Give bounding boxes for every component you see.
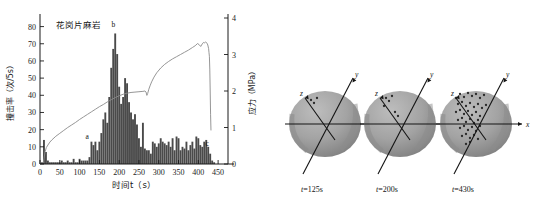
acoustic-event-dot	[463, 96, 465, 98]
histogram-bar	[170, 147, 172, 164]
acoustic-event-dot	[483, 94, 485, 96]
x-tick-label: 450	[212, 168, 224, 177]
histogram-bar	[140, 147, 142, 164]
histogram-bar	[184, 149, 186, 164]
histogram-bar	[81, 161, 83, 164]
histogram-bar	[156, 147, 158, 164]
histogram-bar	[160, 138, 162, 164]
histogram-bar	[193, 149, 195, 164]
y2-tick-label: 0	[232, 160, 236, 169]
histogram-bar	[136, 124, 138, 164]
x-tick-label: 0	[38, 168, 42, 177]
x-axis-title: 时间t（s）	[112, 180, 156, 190]
histogram-bar	[126, 83, 128, 164]
histogram-bar	[172, 138, 174, 164]
x-tick-label: 400	[192, 168, 204, 177]
acoustic-event-dot	[485, 104, 487, 106]
histogram-bar	[114, 33, 116, 164]
acoustic-event-dot	[455, 111, 457, 113]
figure-root: 0102030405060708001234050100150200250300…	[0, 0, 536, 204]
histogram-bar	[124, 78, 126, 164]
histogram-bar	[176, 137, 178, 164]
histogram-bar	[106, 123, 108, 164]
histogram-bar	[150, 154, 152, 164]
histogram-bar	[102, 119, 104, 164]
x-tick-label: 50	[56, 168, 64, 177]
histogram-bar	[164, 143, 166, 164]
acoustic-event-dot	[385, 97, 387, 99]
acoustic-event-dot	[469, 137, 471, 139]
acoustic-event-dot	[479, 97, 481, 99]
y-tick-label: 50	[28, 74, 36, 83]
x-tick-label: 250	[133, 168, 145, 177]
annotation-a: a	[86, 132, 90, 141]
acoustic-event-dot	[481, 107, 483, 109]
annotation-c: c	[206, 139, 210, 148]
histogram-bar	[148, 150, 150, 164]
acoustic-event-dot	[391, 95, 393, 97]
y-axis-title: 撞击率（次/5s）	[5, 61, 15, 121]
acoustic-event-dot	[394, 111, 396, 113]
histogram-bar	[182, 147, 184, 164]
histogram-bar	[187, 150, 189, 164]
acoustic-event-dot	[479, 115, 481, 117]
acoustic-event-dot	[475, 111, 477, 113]
sphere-caption: t=430s	[452, 185, 474, 194]
acoustic-event-dot	[461, 117, 463, 119]
sphere-caption-value: =200s	[378, 185, 398, 194]
y-tick-label: 10	[28, 143, 36, 152]
histogram-bar	[166, 145, 168, 164]
histogram-bar	[47, 161, 49, 164]
sphere-diagram-2: xyzt=200s	[360, 70, 454, 194]
sphere-caption-value: =125s	[303, 185, 323, 194]
acoustic-event-dot	[471, 126, 473, 128]
acoustic-event-dot	[467, 92, 469, 94]
y-tick-label: 70	[28, 40, 36, 49]
y2-tick-label: 4	[232, 14, 236, 23]
acoustic-emission-chart: 0102030405060708001234050100150200250300…	[0, 0, 268, 204]
axis-y-label: y	[354, 70, 359, 79]
acoustic-event-dot	[465, 105, 467, 107]
histogram-bar	[45, 152, 47, 164]
acoustic-event-dot	[388, 100, 390, 102]
y2-tick-label: 2	[232, 87, 236, 96]
sphere-caption-value: =430s	[454, 185, 474, 194]
histogram-bar	[201, 147, 203, 164]
histogram-bar	[209, 154, 211, 164]
histogram-bar	[89, 157, 91, 164]
histogram-bar	[100, 133, 102, 164]
acoustic-event-dot	[316, 97, 318, 99]
histogram-bar	[191, 142, 193, 164]
axis-z-label: z	[299, 89, 303, 98]
y-tick-label: 60	[28, 57, 36, 66]
histogram-bar	[118, 87, 120, 164]
acoustic-event-dot	[310, 99, 312, 101]
acoustic-event-dot	[459, 127, 461, 129]
acoustic-event-dot	[459, 109, 461, 111]
y-tick-label: 20	[28, 126, 36, 135]
axis-x-arrowhead	[518, 122, 522, 126]
acoustic-event-dot	[477, 138, 479, 140]
histogram-bar	[91, 142, 93, 164]
histogram-bar	[132, 119, 134, 164]
y-tick-label: 80	[28, 23, 36, 32]
sphere-caption: t=125s	[301, 185, 323, 194]
x-tick-label: 300	[153, 168, 165, 177]
acoustic-event-dot	[477, 119, 479, 121]
x-tick-label: 350	[173, 168, 185, 177]
axis-z-label: z	[450, 89, 454, 98]
histogram-bar	[120, 104, 122, 164]
histogram-bar	[144, 149, 146, 164]
acoustic-event-dot	[465, 133, 467, 135]
acoustic-event-dot	[313, 102, 315, 104]
acoustic-emission-chart-panel: 0102030405060708001234050100150200250300…	[0, 0, 268, 204]
axis-z-label: z	[374, 89, 378, 98]
histogram-bar	[211, 161, 213, 164]
sphere-diagrams: xyzt=125sxyzt=200sxyzt=430s	[268, 0, 536, 204]
sphere-diagram-3: xyzt=430s	[436, 70, 530, 194]
acoustic-event-dot	[459, 93, 461, 95]
histogram-bar	[112, 49, 114, 164]
histogram-bar	[174, 150, 176, 164]
histogram-bars	[41, 33, 215, 164]
acoustic-event-dot	[475, 93, 477, 95]
